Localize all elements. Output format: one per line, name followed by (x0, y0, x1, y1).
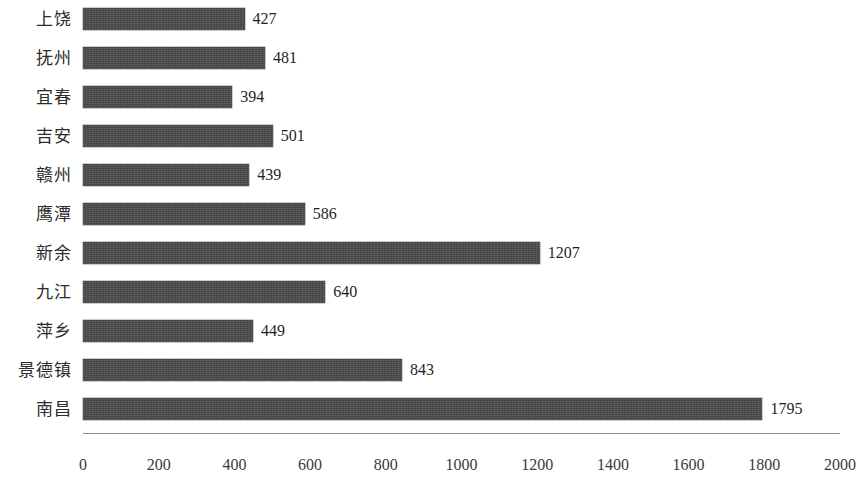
bar-value-label: 843 (410, 359, 434, 381)
bar-track: 481 (83, 39, 861, 78)
bar (83, 320, 253, 342)
bar-value-label: 640 (333, 281, 357, 303)
x-tick-label: 0 (79, 456, 87, 474)
bar (83, 242, 540, 264)
bar-row: 新余1207 (0, 234, 861, 273)
x-tick-label: 2000 (824, 456, 856, 474)
bar (83, 86, 232, 108)
category-label: 鹰潭 (0, 195, 72, 234)
bar-value-label: 1207 (548, 242, 580, 264)
bar-row: 上饶427 (0, 0, 861, 39)
x-tick-label: 200 (147, 456, 171, 474)
category-label: 上饶 (0, 0, 72, 39)
bar-row: 南昌1795 (0, 390, 861, 429)
bar-track: 586 (83, 195, 861, 234)
x-tick-label: 1800 (748, 456, 780, 474)
bar-value-label: 449 (261, 320, 285, 342)
category-label: 南昌 (0, 390, 72, 429)
bar-value-label: 1795 (770, 398, 802, 420)
bar-row: 萍乡449 (0, 312, 861, 351)
category-label: 九江 (0, 273, 72, 312)
bar-value-label: 586 (313, 203, 337, 225)
bar-row: 九江640 (0, 273, 861, 312)
bar-value-label: 439 (257, 164, 281, 186)
x-tick-label: 600 (298, 456, 322, 474)
bar (83, 47, 265, 69)
bar-track: 1207 (83, 234, 861, 273)
bar-track: 640 (83, 273, 861, 312)
x-tick-label: 1000 (446, 456, 478, 474)
x-tick-label: 800 (374, 456, 398, 474)
x-tick-label: 1400 (597, 456, 629, 474)
bar (83, 281, 325, 303)
bar-track: 439 (83, 156, 861, 195)
bar (83, 125, 273, 147)
bar-track: 427 (83, 0, 861, 39)
category-label: 景德镇 (0, 351, 72, 390)
bar-track: 1795 (83, 390, 861, 429)
x-axis-ticks: 0200400600800100012001400160018002000 (0, 434, 861, 486)
category-label: 萍乡 (0, 312, 72, 351)
bar-value-label: 481 (273, 47, 297, 69)
bar-row: 抚州481 (0, 39, 861, 78)
bar-value-label: 427 (253, 8, 277, 30)
bar-value-label: 394 (240, 86, 264, 108)
bar-track: 394 (83, 78, 861, 117)
x-tick-label: 400 (222, 456, 246, 474)
x-tick-label: 1600 (673, 456, 705, 474)
bar-row: 吉安501 (0, 117, 861, 156)
bar (83, 398, 762, 420)
category-label: 吉安 (0, 117, 72, 156)
chart-plot-area: 上饶427抚州481宜春394吉安501赣州439鹰潭586新余1207九江64… (0, 0, 861, 434)
bar-track: 449 (83, 312, 861, 351)
bar-track: 501 (83, 117, 861, 156)
bar-row: 景德镇843 (0, 351, 861, 390)
bar-track: 843 (83, 351, 861, 390)
category-label: 宜春 (0, 78, 72, 117)
bar-row: 鹰潭586 (0, 195, 861, 234)
category-label: 新余 (0, 234, 72, 273)
bar (83, 359, 402, 381)
x-tick-label: 1200 (521, 456, 553, 474)
bar (83, 8, 245, 30)
category-label: 赣州 (0, 156, 72, 195)
bar-value-label: 501 (281, 125, 305, 147)
bar (83, 164, 249, 186)
bar-row: 赣州439 (0, 156, 861, 195)
bar-chart: 上饶427抚州481宜春394吉安501赣州439鹰潭586新余1207九江64… (0, 0, 861, 486)
category-label: 抚州 (0, 39, 72, 78)
bar-row: 宜春394 (0, 78, 861, 117)
bar (83, 203, 305, 225)
